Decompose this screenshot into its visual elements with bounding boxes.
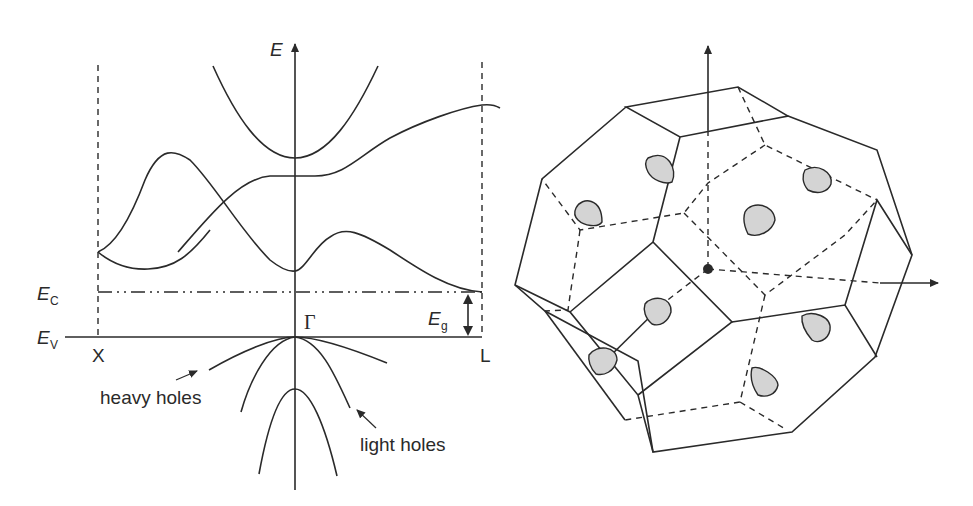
ev-subscript: V — [50, 338, 58, 352]
figure: E E C E V X Γ L E g heavy holes light h — [0, 0, 973, 506]
x-point-label: X — [92, 345, 105, 366]
eg-label: E — [428, 308, 441, 329]
light-holes-label: light holes — [360, 434, 446, 455]
second-conduction-band — [178, 105, 500, 252]
x-valley-band — [98, 230, 210, 269]
electron-pocket-5 — [644, 298, 671, 325]
lowest-conduction-band — [98, 153, 482, 292]
band-gap-arrow-head-up — [463, 294, 473, 304]
ky-axis-hidden — [665, 269, 708, 302]
hidden-edge-left — [545, 230, 580, 311]
electron-pocket-6 — [802, 314, 830, 342]
energy-axis-label: E — [270, 39, 283, 60]
electron-pocket-7 — [589, 348, 617, 375]
front-hex-edge-2 — [732, 305, 877, 357]
ev-label: E — [37, 327, 50, 348]
top-square-face — [626, 87, 788, 137]
split-off-band — [259, 389, 337, 476]
ec-label: E — [37, 283, 50, 304]
brillouin-zone-diagram — [515, 46, 938, 452]
light-holes-pointer — [357, 410, 376, 428]
l-point-label: L — [480, 345, 491, 366]
hidden-edges-middle — [684, 200, 877, 295]
heavy-holes-label: heavy holes — [100, 387, 201, 408]
electron-pocket-8 — [751, 367, 778, 396]
band-gap-arrow-head-down — [463, 326, 473, 336]
lower-left-edges — [515, 285, 653, 452]
right-square-face-edge — [845, 200, 912, 305]
heavy-holes-pointer — [176, 371, 197, 380]
eg-subscript: g — [441, 319, 448, 333]
hidden-edges-bottom — [740, 402, 787, 430]
electron-pocket-2 — [575, 201, 602, 226]
electron-pocket-1 — [646, 155, 674, 182]
gamma-point-label: Γ — [304, 311, 316, 333]
band-structure-diagram: E E C E V X Γ L E g heavy holes light h — [37, 39, 500, 490]
heavy-hole-band — [209, 337, 387, 370]
ec-subscript: C — [50, 294, 59, 308]
electron-pocket-4 — [744, 205, 775, 235]
electron-pocket-3 — [803, 168, 831, 193]
gamma-point-dot — [703, 264, 713, 274]
